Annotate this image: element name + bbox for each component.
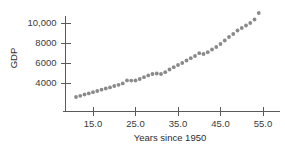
data-point bbox=[117, 83, 121, 87]
data-point bbox=[210, 48, 214, 52]
data-point bbox=[197, 51, 201, 55]
data-point bbox=[231, 32, 235, 36]
data-point bbox=[219, 42, 223, 46]
data-point bbox=[87, 92, 91, 96]
data-point bbox=[74, 95, 78, 99]
x-tick-label: 25.0 bbox=[126, 118, 145, 129]
data-point bbox=[78, 94, 82, 98]
data-point bbox=[240, 26, 244, 30]
data-point bbox=[236, 29, 240, 33]
data-point bbox=[151, 72, 155, 76]
data-point bbox=[100, 88, 104, 92]
data-point bbox=[108, 86, 112, 90]
data-point bbox=[146, 74, 150, 78]
data-point bbox=[185, 59, 189, 63]
data-point bbox=[155, 72, 159, 76]
data-point bbox=[121, 82, 125, 86]
data-point bbox=[189, 56, 193, 60]
data-point bbox=[91, 90, 95, 94]
x-tick-label: 15.0 bbox=[84, 118, 103, 129]
data-series-gdp bbox=[74, 11, 261, 99]
gdp-scatter-chart: 40006000800010,000 15.025.035.045.055.0 … bbox=[0, 0, 285, 150]
data-point bbox=[142, 75, 146, 79]
x-axis: 15.025.035.045.055.0 bbox=[63, 107, 281, 129]
y-tick-label: 8000 bbox=[35, 37, 56, 48]
x-tick-label: 35.0 bbox=[169, 118, 188, 129]
data-point bbox=[257, 11, 261, 15]
data-point bbox=[172, 65, 176, 69]
data-point bbox=[163, 70, 167, 74]
y-tick-label: 6000 bbox=[35, 57, 56, 68]
y-axis-title: GDP bbox=[8, 48, 19, 69]
y-tick-label: 10,000 bbox=[27, 17, 56, 28]
data-point bbox=[244, 24, 248, 28]
data-point bbox=[193, 54, 197, 58]
data-point bbox=[206, 50, 210, 54]
y-tick-label: 4000 bbox=[35, 77, 56, 88]
data-point bbox=[202, 52, 206, 56]
data-point bbox=[214, 45, 218, 49]
data-point bbox=[129, 79, 133, 83]
data-point bbox=[176, 63, 180, 67]
data-point bbox=[112, 84, 116, 88]
data-point bbox=[227, 35, 231, 39]
x-tick-label: 45.0 bbox=[211, 118, 230, 129]
data-point bbox=[134, 79, 138, 83]
chart-canvas: 40006000800010,000 15.025.035.045.055.0 … bbox=[0, 0, 285, 150]
data-point bbox=[104, 87, 108, 91]
data-point bbox=[125, 79, 129, 83]
data-point bbox=[180, 61, 184, 65]
data-point bbox=[138, 77, 142, 81]
data-point bbox=[95, 89, 99, 93]
data-point bbox=[253, 18, 257, 22]
data-point bbox=[168, 68, 172, 72]
y-axis: 40006000800010,000 bbox=[27, 16, 70, 112]
data-point bbox=[83, 93, 87, 97]
data-point bbox=[248, 21, 252, 25]
data-point bbox=[159, 72, 163, 76]
x-tick-label: 55.0 bbox=[254, 118, 273, 129]
x-axis-title: Years since 1950 bbox=[134, 132, 207, 143]
data-point bbox=[223, 39, 227, 43]
